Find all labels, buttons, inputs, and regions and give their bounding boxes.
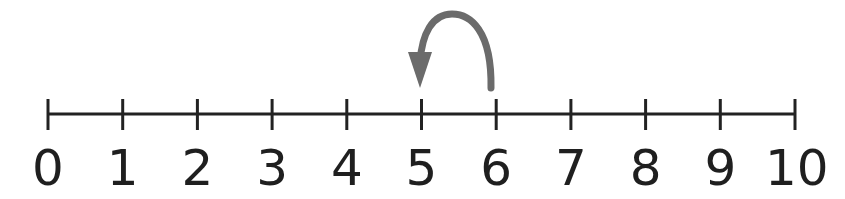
arrow-head-icon [408, 52, 432, 88]
tick-label-3: 3 [242, 140, 302, 196]
tick-label-5: 5 [392, 140, 452, 196]
tick-label-9: 9 [690, 140, 750, 196]
tick-label-2: 2 [167, 140, 227, 196]
tick-label-6: 6 [466, 140, 526, 196]
tick-label-0: 0 [18, 140, 78, 196]
tick-label-10: 10 [765, 140, 825, 196]
tick-label-4: 4 [317, 140, 377, 196]
tick-label-1: 1 [93, 140, 153, 196]
tick-label-8: 8 [616, 140, 676, 196]
jump-arrow-curve [420, 14, 491, 88]
tick-label-7: 7 [541, 140, 601, 196]
